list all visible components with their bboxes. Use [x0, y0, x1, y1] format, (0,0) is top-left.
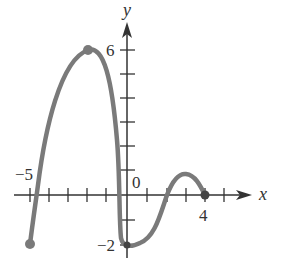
y-axis-label: y	[121, 0, 131, 20]
function-curve	[30, 50, 205, 246]
maximum-dot	[83, 45, 93, 55]
origin-label: 0	[132, 173, 141, 192]
minimum-dot	[124, 242, 131, 249]
x-tick-label-neg5: −5	[15, 165, 33, 184]
y-tick-label-6: 6	[106, 41, 115, 60]
x-tick-label-4: 4	[199, 206, 208, 225]
x-axis-label: x	[258, 184, 267, 204]
function-graph: −5 0 4 6 −2 y x	[0, 0, 285, 275]
y-tick-label-neg2: −2	[97, 236, 115, 255]
endpoint-right-dot	[201, 191, 210, 200]
endpoint-left-dot	[25, 239, 35, 249]
